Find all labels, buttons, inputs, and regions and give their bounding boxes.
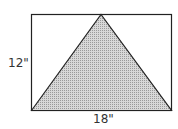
height-label: 12" bbox=[8, 57, 29, 69]
width-label: 18" bbox=[93, 113, 114, 125]
shaded-triangle bbox=[32, 15, 172, 111]
